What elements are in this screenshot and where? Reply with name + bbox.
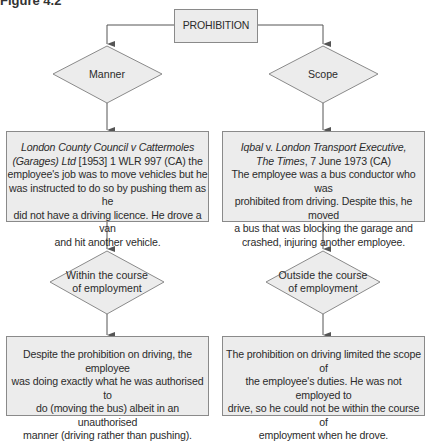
case-box-cattermoles: London County Council v Cattermoles (Gar…: [6, 131, 209, 222]
result-text-line: Despite the prohibition on driving, the …: [7, 348, 208, 375]
decision-label-manner: Manner: [89, 68, 125, 81]
case-text-line: and hit another vehicle.: [7, 236, 208, 250]
result-text-line: do (moving the bus) albeit in an unautho…: [7, 402, 208, 429]
decision-label-within-course: Within the course of employment: [66, 269, 148, 295]
case-text-line: crashed, injuring another employee.: [223, 236, 424, 250]
result-text-line: manner (driving rather than pushing).: [7, 429, 208, 443]
root-label: PROHIBITION: [183, 19, 250, 33]
decision-label-scope: Scope: [308, 68, 338, 81]
case-text-line: prohibited from driving. Despite this, h…: [223, 195, 424, 222]
connector-root-to-scope: [258, 25, 323, 44]
case-citation-line-2: The Times, 7 June 1973 (CA): [223, 155, 424, 169]
result-text-line: The prohibition on driving limited the s…: [223, 348, 424, 375]
case-citation-line-2: (Garages) Ltd [1953] 1 WLR 997 (CA) the: [7, 155, 208, 169]
case-text-line: did not have a driving licence. He drove…: [7, 209, 208, 236]
result-text-line: drive, so he could not be within the cou…: [223, 402, 424, 429]
case-text-line: employee's job was to move vehicles but …: [7, 168, 208, 182]
case-text-line: a bus that was blocking the garage and: [223, 222, 424, 236]
decision-label-outside-course: Outside the course of employment: [279, 269, 368, 295]
connector-root-to-manner: [107, 25, 174, 44]
case-text-line: was instructed to do so by pushing them …: [7, 182, 208, 209]
result-text-line: the employee's duties. He was not employ…: [223, 375, 424, 402]
case-text-line: The employee was a bus conductor who was: [223, 168, 424, 195]
result-box-outside: The prohibition on driving limited the s…: [222, 336, 425, 416]
result-text-line: was doing exactly what he was authorised…: [7, 375, 208, 402]
result-text-line: employment when he drove.: [223, 429, 424, 443]
case-citation-line-1: London County Council v Cattermoles: [7, 141, 208, 155]
case-citation-line-1: Iqbal v. London Transport Executive,: [223, 141, 424, 155]
root-node-prohibition: PROHIBITION: [174, 9, 258, 43]
result-box-within: Despite the prohibition on driving, the …: [6, 336, 209, 416]
case-box-iqbal: Iqbal v. London Transport Executive, The…: [222, 131, 425, 222]
